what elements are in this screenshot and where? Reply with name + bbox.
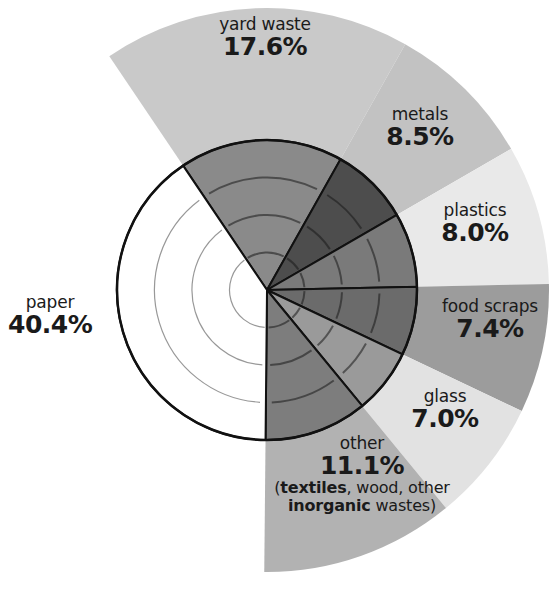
slice-percent: 7.0% [400, 406, 490, 432]
label-paper: paper 40.4% [8, 294, 92, 338]
label-glass: glass 7.0% [400, 388, 490, 432]
slice-percent: 8.0% [420, 220, 530, 246]
label-metals: metals 8.5% [370, 106, 470, 150]
label-food-scraps: food scraps 7.4% [425, 298, 555, 342]
note-text-end: wastes) [371, 496, 436, 515]
note-term-textiles: textiles [280, 478, 346, 497]
label-plastics: plastics 8.0% [420, 202, 530, 246]
note-term-inorganic: inorganic [288, 496, 371, 515]
slice-percent: 7.4% [425, 316, 555, 342]
slice-percent: 11.1% [262, 453, 462, 479]
slice-percent: 8.5% [370, 124, 470, 150]
label-yard-waste: yard waste 17.6% [180, 16, 350, 60]
inner-illustration-disc [117, 140, 417, 440]
slice-percent: 17.6% [180, 34, 350, 60]
note-text: , wood, other [347, 478, 450, 497]
slice-percent: 40.4% [8, 312, 92, 338]
label-other: other 11.1% (textiles, wood, other inorg… [262, 435, 462, 516]
slice-note: (textiles, wood, other inorganic wastes) [262, 479, 462, 516]
